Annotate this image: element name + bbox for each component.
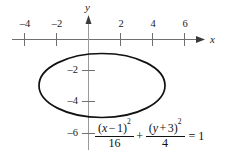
ellipse-curve (39, 54, 165, 118)
x-axis-label: x (210, 34, 215, 45)
fraction-x-numerator: (x−1)2 (95, 122, 134, 136)
plus-sign-y: + (158, 121, 168, 135)
y-tick-label--6: –6 (52, 128, 78, 139)
fraction-y-term: (y+3)2 4 (146, 122, 185, 151)
figure-canvas: –4 –2 2 4 6 –2 –4 –6 x y (x−1)2 16 + (y+… (0, 0, 229, 164)
x-tick-label-2: 2 (109, 19, 133, 30)
fraction-x-term: (x−1)2 16 (95, 122, 134, 151)
x-tick-label-4: 4 (141, 19, 165, 30)
equation-result: 1 (195, 129, 204, 144)
x-tick-label-6: 6 (173, 19, 197, 30)
x-tick-label--4: –4 (13, 19, 37, 30)
minus-sign-x: − (107, 121, 117, 135)
x-axis-arrowhead (196, 36, 205, 43)
y-tick-label--4: –4 (52, 96, 78, 107)
y-axis-label: y (85, 2, 90, 13)
fraction-y-numerator: (y+3)2 (146, 122, 185, 136)
x-tick-label--2: –2 (45, 19, 69, 30)
exponent-y-term: 2 (178, 117, 182, 126)
exponent-x-term: 2 (127, 117, 131, 126)
fraction-x-denominator: 16 (105, 137, 123, 151)
y-tick-label--2: –2 (52, 65, 78, 76)
fraction-y-denominator: 4 (159, 137, 171, 151)
equals-sign: = (186, 129, 196, 144)
ellipse-equation: (x−1)2 16 + (y+3)2 4 = 1 (94, 122, 204, 151)
y-axis-arrowhead (86, 15, 92, 24)
plus-sign: + (135, 129, 145, 144)
